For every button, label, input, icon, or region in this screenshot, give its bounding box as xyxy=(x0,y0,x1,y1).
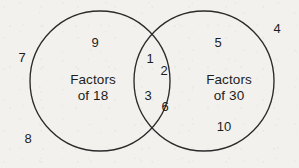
right-set-circle xyxy=(134,11,274,151)
member-intersection-3: 3 xyxy=(144,88,151,103)
member-right-only-10: 10 xyxy=(217,119,231,134)
venn-diagram-svg: Factors of 18 Factors of 30 9 1 2 3 6 5 … xyxy=(0,0,299,168)
member-left-only-9: 9 xyxy=(91,35,98,50)
member-outside-4: 4 xyxy=(273,21,280,36)
right-set-label-line2: of 30 xyxy=(214,88,245,103)
venn-diagram-canvas: Factors of 18 Factors of 30 9 1 2 3 6 5 … xyxy=(0,0,299,168)
left-set-label-line2: of 18 xyxy=(78,88,109,103)
member-outside-8: 8 xyxy=(24,131,31,146)
right-set-label-line1: Factors xyxy=(206,72,252,87)
member-intersection-6: 6 xyxy=(161,99,168,114)
member-right-only-5: 5 xyxy=(214,35,221,50)
member-intersection-2: 2 xyxy=(160,63,167,78)
member-intersection-1: 1 xyxy=(146,51,153,66)
member-outside-7: 7 xyxy=(18,50,25,65)
left-set-label-line1: Factors xyxy=(70,72,116,87)
